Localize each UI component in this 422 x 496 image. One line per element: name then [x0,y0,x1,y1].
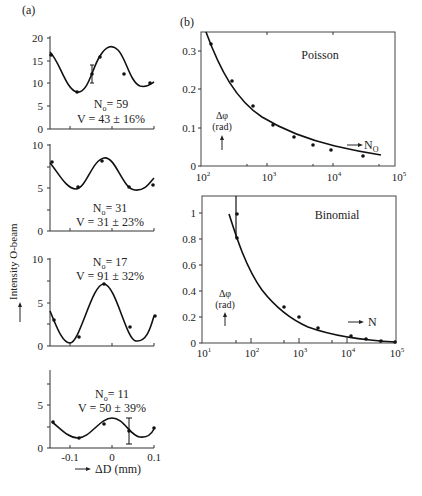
ytick: 5 [38,297,44,309]
xlabel: ΔD (mm) [95,462,141,476]
xtick: 104 [341,346,356,359]
annotation-v: V = 31 ± 23% [76,215,144,229]
ytick: 5 [38,100,44,112]
ytick: 0.4 [182,285,196,297]
ytick: 10 [32,253,44,265]
ytick: 5 [38,399,44,411]
xtick: 105 [392,170,407,183]
xlabel: NO [364,138,379,154]
plot-a3: 10 5 0 No= 17 V = 91 ± 32% [32,253,157,352]
ytick: 0.3 [182,45,196,57]
annotation-n: No= 59 [94,97,128,113]
ytick: 15 [32,55,44,67]
ylabel-rad: (rad) [212,121,231,133]
ytick: 0 [38,225,44,237]
plot-binomial: 1 0.8 0.6 0.4 0.2 0 101 102 103 104 105 … [182,196,405,359]
xtick: -0.1 [61,451,78,463]
ylabel-text: Intensity O-beam [7,223,19,300]
ytick: 0.2 [182,83,196,95]
ytick: 0.6 [182,259,196,271]
xlabel-arrow-icon [75,467,91,471]
plot-a1: 20 15 10 5 0 No= 59 V = 43 ± 16% [32,32,154,135]
ylabel-dphi: Δφ [219,288,231,299]
panel-a-ylabel: Intensity O-beam [7,223,19,300]
ytick: 1 [191,207,197,219]
binomial-title: Binomial [315,208,360,222]
ylabel-arrow-icon [220,135,224,150]
figure: (a) Intensity O-beam 20 15 10 5 0 [0,0,422,496]
ytick: 0.1 [182,122,196,134]
ytick: 0 [38,442,44,454]
ytick: 10 [32,77,44,89]
annotation-v: V = 50 ± 39% [78,401,146,415]
xtick: 103 [293,346,308,359]
xtick: 102 [245,346,260,359]
ylabel-dphi: Δφ [216,110,228,121]
xlabel: N [368,315,377,329]
plot-a2: 10 5 0 No= 31 V = 31 ± 23% [32,139,155,237]
annotation-v: V = 91 ± 32% [76,269,144,283]
panel-b-label: (b) [180,15,194,29]
xtick: 104 [327,170,342,183]
ytick: 0 [38,123,44,135]
ytick: 0.2 [182,311,196,323]
xtick: 101 [197,346,212,359]
ytick: 0.8 [182,233,196,245]
panel-a-label: (a) [22,3,35,17]
ylabel-rad: (rad) [215,299,234,311]
ytick: 0 [38,340,44,352]
xtick: 103 [262,170,277,183]
ytick: 5 [38,182,44,194]
xlabel-arrow-icon [347,143,363,147]
ylabel-arrow-icon [18,302,22,322]
xtick: 0.1 [147,451,161,463]
xtick: 105 [390,346,405,359]
ytick: 20 [32,32,44,44]
xtick: 102 [196,170,211,183]
poisson-title: Poisson [301,48,338,62]
ytick: 10 [32,139,44,151]
ytick: 0 [191,337,197,349]
plot-a4: 5 0 No= 11 V = 50 ± 39% -0.1 0 0.1 ΔD (m… [38,370,161,476]
xlabel-arrow-icon [348,320,364,324]
annotation-v: V = 43 ± 16% [77,112,145,126]
plot-poisson: 0.3 0.2 0.1 0 102 103 104 105 Poisson Δφ… [182,32,407,183]
ylabel-arrow-icon [223,312,227,326]
